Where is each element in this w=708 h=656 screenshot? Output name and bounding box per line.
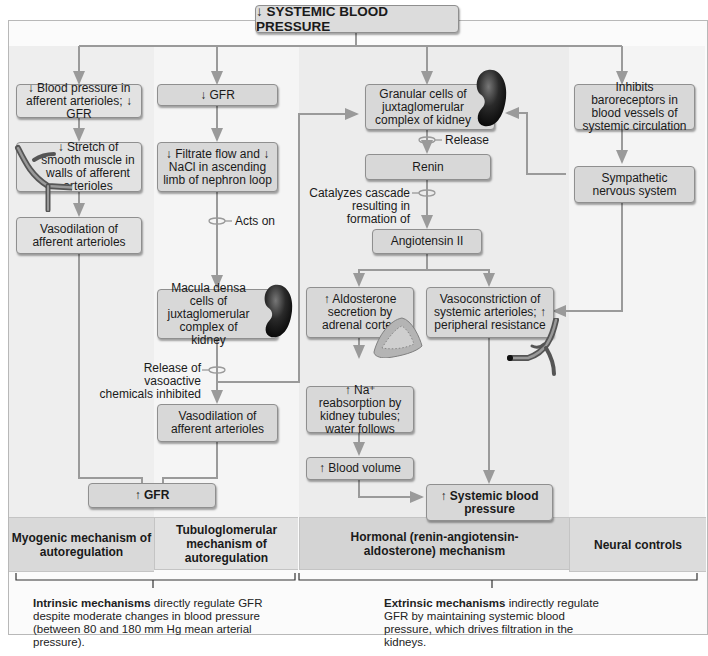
arteriole-icon xyxy=(14,142,72,212)
arrow-to-aldosterone xyxy=(359,254,427,285)
arrow-to-systemic-bp xyxy=(359,479,422,497)
box-vasodilation-mid: Vasodilation of afferent arterioles xyxy=(157,404,278,442)
box-angiotensin: Angiotensin II xyxy=(372,229,482,254)
box-sympathetic: Sympathetic nervous system xyxy=(574,166,695,203)
box-gfr-up: ↑ GFR xyxy=(88,483,216,508)
box-na-reabsorption: ↑ Na⁺ reabsorption by kidney tubules; wa… xyxy=(306,386,414,433)
arrow-sympathetic-to-granular xyxy=(507,113,566,174)
box-filtrate: ↓ Filtrate flow and ↓ NaCl in ascending … xyxy=(157,142,278,192)
box-systemic-bp-up: ↑ Systemic blood pressure xyxy=(426,484,553,521)
arrow-to-vasoconstriction xyxy=(427,270,489,285)
label-release: Release xyxy=(445,134,489,147)
box-baroreceptors: Inhibits baroreceptors in blood vessels … xyxy=(574,84,695,130)
arteriole-icon xyxy=(506,318,568,376)
box-renin: Renin xyxy=(365,154,491,180)
box-bp-afferent: ↓ Blood pressure in afferent arterioles;… xyxy=(16,84,142,118)
bracket-intrinsic xyxy=(16,573,295,580)
kidney-icon xyxy=(262,283,294,339)
box-vasodilation-left: Vasodilation of afferent arterioles xyxy=(16,217,142,254)
label-acts-on: Acts on xyxy=(235,215,275,228)
box-macula-densa: Macula densa cells of juxtaglomerular co… xyxy=(157,289,278,339)
adrenal-gland-icon xyxy=(372,316,424,358)
label-catalyzes: Catalyzes cascade resulting in formation… xyxy=(302,187,410,226)
label-vasoactive: Release of vasoactive chemicals inhibite… xyxy=(98,362,201,401)
page-title: ↓ SYSTEMIC BLOOD PRESSURE xyxy=(255,5,459,33)
box-gfr-down: ↓ GFR xyxy=(157,84,278,106)
arrow-sympathetic-to-vasoconstriction xyxy=(554,202,622,311)
kidney-icon xyxy=(474,68,508,128)
bracket-extrinsic xyxy=(299,573,697,580)
box-blood-volume: ↑ Blood volume xyxy=(306,457,414,480)
